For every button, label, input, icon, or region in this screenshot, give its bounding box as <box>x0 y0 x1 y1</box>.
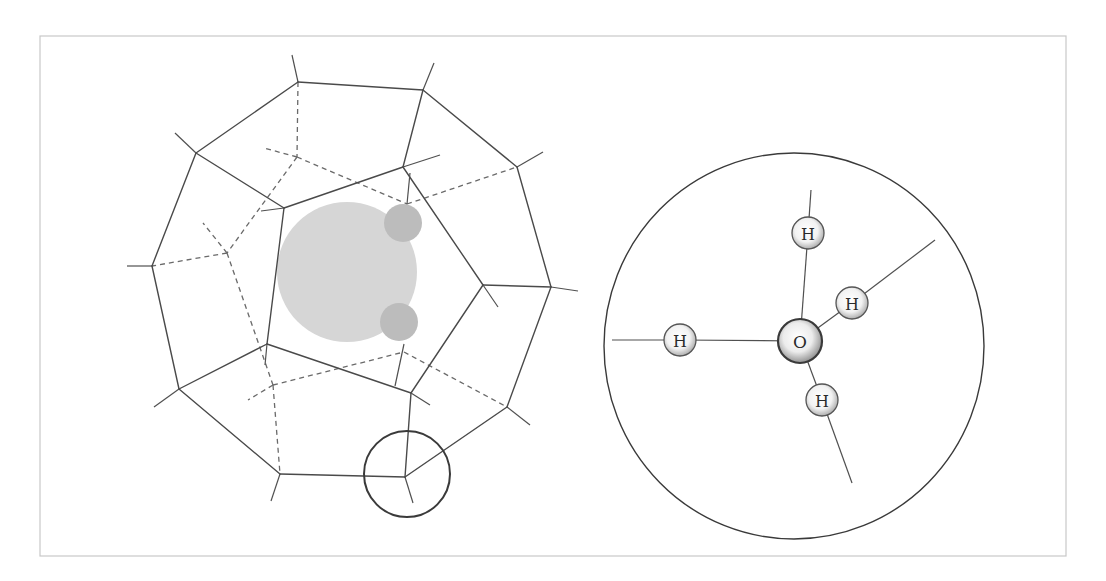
guest-side-atom <box>384 204 422 242</box>
vertex-stub <box>403 155 440 167</box>
cage-edge <box>267 344 411 393</box>
guest-side-atom <box>380 303 418 341</box>
cage-edge <box>152 266 179 389</box>
cage-edge <box>152 153 196 266</box>
hidden-edge <box>248 385 273 400</box>
hydrogen-atom: H <box>836 287 868 319</box>
cage-spoke <box>405 393 411 477</box>
cage-spoke <box>483 285 551 287</box>
vertex-stub <box>483 285 498 307</box>
cage-edge <box>196 82 298 153</box>
vertex-stub <box>271 474 280 501</box>
hidden-edge <box>152 253 227 266</box>
hbond-pointer <box>407 173 410 204</box>
clathrate-diagram: HHHHO <box>0 0 1106 581</box>
hydrogen-atom: H <box>806 384 838 416</box>
figure-frame <box>40 36 1066 556</box>
vertex-stub <box>175 133 196 153</box>
vertex-stub <box>154 389 179 407</box>
cage-edge <box>405 407 507 477</box>
oxygen-label: O <box>793 332 807 352</box>
hidden-edge <box>273 385 280 474</box>
hbond-pointer <box>395 344 404 386</box>
hidden-edge <box>264 148 297 157</box>
cage-edge <box>284 167 403 208</box>
vertex-stub <box>292 55 298 82</box>
oxygen-atom: O <box>778 319 822 363</box>
cage-edge <box>411 285 483 393</box>
cage-edge <box>517 167 551 287</box>
hydrogen-atom: H <box>792 217 824 249</box>
cage-spoke <box>179 344 267 389</box>
cage-spoke <box>403 90 423 167</box>
guest-molecule <box>277 202 422 342</box>
vertex-stub <box>517 152 543 167</box>
hidden-edge <box>203 223 227 253</box>
hidden-edge <box>297 82 298 157</box>
cage-edge <box>280 474 405 477</box>
hydrogen-label: H <box>845 295 859 314</box>
cage-edge <box>179 389 280 474</box>
hidden-edge <box>227 253 273 385</box>
vertex-stub <box>261 208 284 211</box>
hydrogen-label: H <box>815 392 829 411</box>
vertex-stub <box>551 287 578 291</box>
zoomed-water-view: HHHHO <box>604 153 984 539</box>
vertex-stub <box>405 477 413 503</box>
hydrogen-label: H <box>801 225 815 244</box>
hidden-edge <box>297 157 407 204</box>
vertex-stub <box>423 63 434 90</box>
vertex-stub <box>265 344 267 365</box>
cage-spoke <box>196 153 284 208</box>
hydrogen-label: H <box>673 332 687 351</box>
cage-edge <box>298 82 423 90</box>
hydrogen-atom: H <box>664 324 696 356</box>
vertex-stub <box>507 407 530 425</box>
cage-edge <box>507 287 551 407</box>
vertex-stub <box>411 393 430 405</box>
